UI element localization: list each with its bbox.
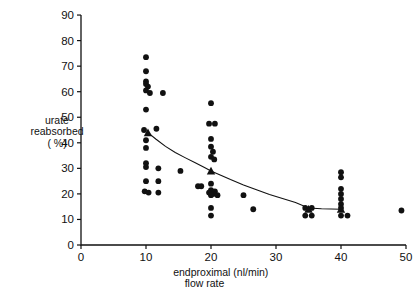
x-axis-tick-label: 40 [335,251,348,263]
data-point [302,213,308,219]
data-point [210,149,216,155]
data-point [160,90,166,96]
data-point [143,54,149,60]
data-point [208,136,214,142]
data-point [215,192,221,198]
data-point [338,186,344,192]
data-point [212,121,218,127]
data-point [338,174,344,180]
data-point [338,191,344,197]
y-axis-label-line3: ( %) [47,137,66,149]
x-axis-tick-label: 20 [205,251,218,263]
y-axis-tick-label: 90 [61,9,74,21]
data-point [143,145,149,151]
y-axis-tick-label: 10 [61,213,74,225]
data-point [178,168,184,174]
y-axis-tick-label: 0 [68,239,74,251]
data-point [241,192,247,198]
data-point [198,183,204,189]
data-point [250,206,256,212]
data-point [345,213,351,219]
data-point [143,107,149,113]
data-point [309,213,315,219]
data-point [206,121,212,127]
data-point [155,165,161,171]
scatter-plot-figure: 010203040506070809001020304050endproxima… [0,0,414,298]
data-point [211,157,217,163]
y-axis-label: urate [45,114,69,126]
data-point [208,144,214,150]
data-point [338,169,344,175]
data-point [399,208,405,214]
data-point [208,205,214,211]
chart-axes [81,15,406,245]
y-axis-tick-label: 70 [61,60,74,72]
data-point [155,178,161,184]
data-point [208,192,214,198]
data-point [146,190,152,196]
x-axis-tick-label: 30 [270,251,283,263]
data-point [154,126,160,132]
y-axis-tick-label: 20 [61,188,74,200]
data-point [143,178,149,184]
x-axis-label-line2: flow rate [185,277,225,289]
data-point [147,90,153,96]
data-point [143,68,149,74]
data-point [338,196,344,202]
data-point [143,164,149,170]
data-point [143,137,149,143]
y-axis-label-line2: reabsorbed [30,125,83,137]
data-point [208,100,214,106]
x-axis-tick-label: 50 [400,251,413,263]
x-axis-tick-label: 10 [140,251,153,263]
y-axis-tick-label: 30 [61,162,74,174]
x-axis-tick-label: 0 [78,251,84,263]
data-point [208,181,214,187]
data-point [338,213,344,219]
data-point [155,190,161,196]
y-axis-tick-label: 80 [61,35,74,47]
y-axis-tick-label: 60 [61,86,74,98]
mean-marker [207,167,215,175]
data-point [208,213,214,219]
